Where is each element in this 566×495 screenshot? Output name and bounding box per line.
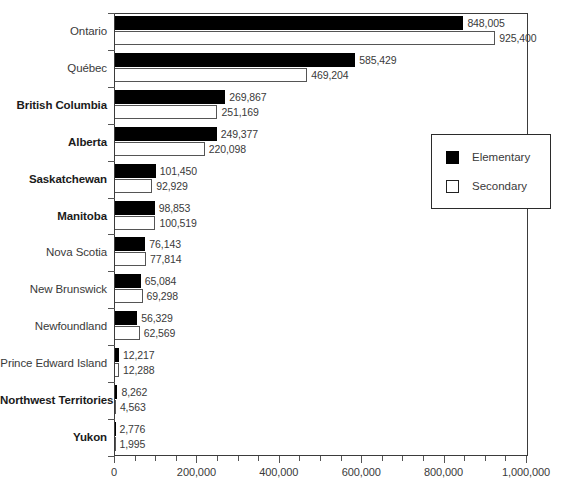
x-axis-minor-tick (464, 456, 465, 461)
y-axis-tick (108, 308, 115, 309)
chart-category-row: Newfoundland56,32962,569 (0, 309, 566, 346)
bar-value-label: 69,298 (144, 289, 179, 303)
x-axis-minor-tick (402, 456, 403, 461)
x-axis-major-tick (444, 456, 445, 463)
bar-elementary[interactable] (114, 90, 225, 104)
bar-chart: Ontario848,005925,400Québec585,429469,20… (0, 0, 566, 495)
bar-value-label: 220,098 (206, 142, 246, 156)
x-axis-minor-tick (155, 456, 156, 461)
chart-category-row: Yukon2,7761,995 (0, 420, 566, 457)
category-label-manitoba: Manitoba (0, 210, 107, 223)
bar-elementary[interactable] (114, 237, 145, 251)
y-axis-tick (108, 124, 115, 125)
category-label-saskatchewan: Saskatchewan (0, 173, 107, 186)
bar-value-label: 925,400 (496, 31, 536, 45)
x-axis-tick-label: 400,000 (259, 466, 298, 478)
bar-rect (114, 127, 217, 141)
chart-category-row: Nova Scotia76,14377,814 (0, 235, 566, 272)
y-axis-tick (108, 50, 115, 51)
chart-legend: ElementarySecondary (431, 134, 551, 209)
chart-category-row: Québec585,429469,204 (0, 51, 566, 88)
bar-secondary[interactable] (114, 216, 155, 230)
bar-secondary[interactable] (114, 326, 140, 340)
bar-secondary[interactable] (114, 437, 116, 451)
x-axis-major-tick (279, 456, 280, 463)
legend-label: Secondary (472, 180, 527, 193)
category-label-yukon: Yukon (0, 431, 107, 444)
x-axis-tick-label: 800,000 (424, 466, 463, 478)
x-axis-tick-label: 1,000,000 (502, 466, 550, 478)
bar-value-label: 848,005 (464, 16, 504, 30)
chart-category-row: New Brunswick65,08469,298 (0, 272, 566, 309)
x-axis-minor-tick (176, 456, 177, 461)
y-axis-tick (108, 13, 115, 14)
category-label-nova-scotia: Nova Scotia (0, 246, 107, 259)
x-axis-major-tick (526, 456, 527, 463)
bar-secondary[interactable] (114, 31, 495, 45)
bar-rect (114, 142, 205, 156)
legend-swatch-secondary-icon (446, 180, 459, 193)
x-axis-tick-label: 0 (111, 466, 117, 478)
bar-elementary[interactable] (114, 127, 217, 141)
y-axis-tick (108, 271, 115, 272)
bar-elementary[interactable] (114, 16, 463, 30)
chart-category-row: Prince Edward Island12,21712,288 (0, 346, 566, 383)
bar-elementary[interactable] (114, 348, 119, 362)
category-label-prince-edward-island: Prince Edward Island (0, 357, 107, 370)
bar-value-label: 8,262 (118, 385, 147, 399)
y-axis-tick (108, 87, 115, 88)
bar-secondary[interactable] (114, 252, 146, 266)
y-axis-tick (108, 382, 115, 383)
x-axis-minor-tick (217, 456, 218, 461)
bar-elementary[interactable] (114, 385, 117, 399)
bar-secondary[interactable] (114, 105, 217, 119)
bar-rect (114, 289, 143, 303)
bar-secondary[interactable] (114, 363, 119, 377)
bar-elementary[interactable] (114, 311, 137, 325)
bar-value-label: 92,929 (153, 179, 188, 193)
y-axis-tick (108, 234, 115, 235)
bar-secondary[interactable] (114, 142, 205, 156)
bar-secondary[interactable] (114, 68, 307, 82)
y-axis-tick (108, 419, 115, 420)
x-axis-minor-tick (485, 456, 486, 461)
x-axis-minor-tick (299, 456, 300, 461)
bar-value-label: 251,169 (218, 105, 258, 119)
bar-rect (114, 201, 155, 215)
x-axis-minor-tick (341, 456, 342, 461)
bar-rect (114, 348, 119, 362)
x-axis-minor-tick (423, 456, 424, 461)
bar-rect (114, 363, 119, 377)
category-label-british-columbia: British Columbia (0, 99, 107, 112)
x-axis-minor-tick (258, 456, 259, 461)
x-axis-minor-tick (382, 456, 383, 461)
category-label-newfoundland: Newfoundland (0, 320, 107, 333)
x-axis-tick-label: 600,000 (342, 466, 381, 478)
category-label-northwest-territories: Northwest Territories (0, 394, 107, 407)
bar-rect (114, 216, 155, 230)
chart-category-row: British Columbia269,867251,169 (0, 88, 566, 125)
bar-elementary[interactable] (114, 422, 116, 436)
bar-rect (114, 385, 117, 399)
bar-elementary[interactable] (114, 274, 141, 288)
bar-value-label: 269,867 (226, 90, 266, 104)
bar-rect (114, 400, 116, 414)
bar-secondary[interactable] (114, 400, 116, 414)
bar-rect (114, 31, 495, 45)
bar-secondary[interactable] (114, 289, 143, 303)
bar-value-label: 77,814 (147, 252, 182, 266)
bar-value-label: 76,143 (146, 237, 181, 251)
y-axis-tick (108, 198, 115, 199)
x-axis-major-tick (114, 456, 115, 463)
bar-elementary[interactable] (114, 164, 156, 178)
bar-elementary[interactable] (114, 53, 355, 67)
x-axis-major-tick (196, 456, 197, 463)
x-axis-minor-tick (505, 456, 506, 461)
bar-value-label: 98,853 (156, 201, 191, 215)
bar-value-label: 4,563 (117, 400, 146, 414)
bar-value-label: 585,429 (356, 53, 396, 67)
bar-value-label: 469,204 (308, 68, 348, 82)
bar-secondary[interactable] (114, 179, 152, 193)
category-label-qu-bec: Québec (0, 62, 107, 75)
bar-elementary[interactable] (114, 201, 155, 215)
